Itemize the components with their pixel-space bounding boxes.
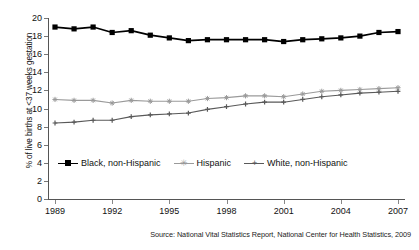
data-point — [148, 112, 153, 117]
data-point — [300, 91, 305, 96]
legend-entry-white-non-hispanic[interactable]: +White, non-Hispanic — [244, 158, 348, 168]
y-tick-label: 20 — [32, 13, 42, 23]
data-point — [148, 33, 153, 38]
data-point — [91, 118, 96, 123]
data-point — [262, 93, 267, 98]
y-tick-label: 8 — [37, 122, 42, 132]
chart-legend: Black, non-Hispanic✳Hispanic+White, non-… — [58, 158, 348, 168]
x-tick-label-1995: 1995 — [159, 206, 179, 216]
data-point — [71, 98, 76, 103]
y-tick-label: 6 — [37, 140, 42, 150]
x-tick-mark — [341, 200, 342, 204]
series-black-non-hispanic — [52, 24, 400, 44]
data-point — [110, 118, 115, 123]
data-point — [52, 24, 57, 29]
data-point — [262, 100, 267, 105]
data-point — [148, 99, 153, 104]
data-point — [110, 100, 115, 105]
data-point — [376, 30, 381, 35]
data-point — [319, 94, 324, 99]
data-point — [91, 98, 96, 103]
data-point — [186, 111, 191, 116]
data-point — [243, 102, 248, 107]
x-tick-label-2007: 2007 — [388, 206, 408, 216]
data-point — [205, 96, 210, 101]
legend-entry-hispanic[interactable]: ✳Hispanic — [174, 158, 232, 168]
data-point — [186, 99, 191, 104]
legend-label-black-non-hispanic: Black, non-Hispanic — [81, 158, 161, 168]
data-point — [205, 107, 210, 112]
chart-figure: % of live births at <37 weeks gestation … — [0, 0, 419, 250]
data-point — [71, 26, 76, 31]
x-tick-mark — [227, 200, 228, 204]
x-tick-mark — [169, 200, 170, 204]
x-tick-label-1989: 1989 — [45, 206, 65, 216]
data-point — [91, 24, 96, 29]
data-point — [338, 35, 343, 40]
x-tick-mark — [55, 200, 56, 204]
data-point — [224, 37, 229, 42]
data-point — [224, 95, 229, 100]
x-tick-mark — [284, 200, 285, 204]
legend-label-white-non-hispanic: White, non-Hispanic — [267, 158, 348, 168]
x-tick-label-2001: 2001 — [274, 206, 294, 216]
data-point — [262, 37, 267, 42]
y-tick-label: 14 — [32, 67, 42, 77]
y-tick-label: 18 — [32, 31, 42, 41]
y-tick-label: 12 — [32, 85, 42, 95]
legend-swatch-black-non-hispanic-icon — [58, 159, 78, 168]
legend-label-hispanic: Hispanic — [197, 158, 232, 168]
data-point — [338, 88, 343, 93]
series-white-non-hispanic — [53, 89, 401, 125]
data-point — [167, 99, 172, 104]
data-point — [338, 93, 343, 98]
y-tick-label: 2 — [37, 176, 42, 186]
x-tick-label-2004: 2004 — [331, 206, 351, 216]
data-point — [300, 97, 305, 102]
data-point — [281, 39, 286, 44]
data-point — [186, 38, 191, 43]
plot-area: 02468101214161820 1989199219951998200120… — [48, 18, 405, 200]
data-point — [72, 120, 77, 125]
legend-swatch-hispanic-icon: ✳ — [174, 159, 194, 168]
data-point — [52, 97, 57, 102]
y-tick-label: 0 — [37, 194, 42, 204]
data-point — [395, 29, 400, 34]
series-hispanic — [52, 85, 400, 106]
series-layer — [48, 18, 405, 200]
data-point — [167, 35, 172, 40]
legend-entry-black-non-hispanic[interactable]: Black, non-Hispanic — [58, 158, 161, 168]
data-point — [53, 121, 58, 126]
x-tick-mark — [398, 200, 399, 204]
data-point — [300, 37, 305, 42]
data-point — [357, 34, 362, 39]
data-point — [205, 37, 210, 42]
data-point — [319, 89, 324, 94]
data-point — [110, 30, 115, 35]
x-tick-label-1998: 1998 — [216, 206, 236, 216]
data-point — [167, 112, 172, 117]
data-point — [243, 93, 248, 98]
data-point — [281, 94, 286, 99]
y-tick-label: 4 — [37, 158, 42, 168]
source-note: Source: National Vital Statistics Report… — [0, 230, 411, 239]
data-point — [129, 28, 134, 33]
data-point — [224, 104, 229, 109]
data-point — [243, 37, 248, 42]
y-tick-label: 16 — [32, 49, 42, 59]
data-point — [319, 36, 324, 41]
data-point — [281, 100, 286, 105]
data-point — [129, 114, 134, 119]
x-tick-label-1992: 1992 — [102, 206, 122, 216]
data-point — [129, 98, 134, 103]
y-tick-label: 10 — [32, 104, 42, 114]
legend-swatch-white-non-hispanic-icon: + — [244, 159, 264, 168]
x-tick-mark — [112, 200, 113, 204]
